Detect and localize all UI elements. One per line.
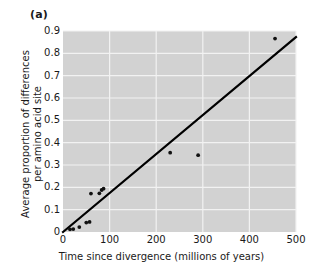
x-axis-tick-label: 0 <box>60 235 66 245</box>
x-axis-title: Time since divergence (millions of years… <box>0 251 323 262</box>
y-axis-title-line1: Average proportion of differences <box>20 36 32 232</box>
x-axis-tick-label: 400 <box>240 235 259 245</box>
y-axis-title-line2: per amino acid site <box>32 36 44 232</box>
figure-panel: (a) 00.10.20.30.40.50.60.70.80.9 0100200… <box>0 0 323 278</box>
x-axis-tick-label: 100 <box>100 235 119 245</box>
x-axis-tick-label: 300 <box>193 235 212 245</box>
y-axis-title: Average proportion of differences per am… <box>20 36 44 232</box>
x-axis-tick-labels: 0100200300400500 <box>0 0 323 278</box>
x-axis-tick-label: 500 <box>286 235 305 245</box>
x-axis-tick-label: 200 <box>147 235 166 245</box>
